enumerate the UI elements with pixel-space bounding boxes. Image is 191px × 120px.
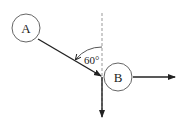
node-b-label: B xyxy=(114,70,123,85)
node-a-label: A xyxy=(21,21,31,36)
angle-label: 60° xyxy=(84,54,99,66)
node-a: A xyxy=(12,14,40,42)
collision-diagram: A B 60° xyxy=(0,0,191,120)
node-b: B xyxy=(104,63,132,91)
